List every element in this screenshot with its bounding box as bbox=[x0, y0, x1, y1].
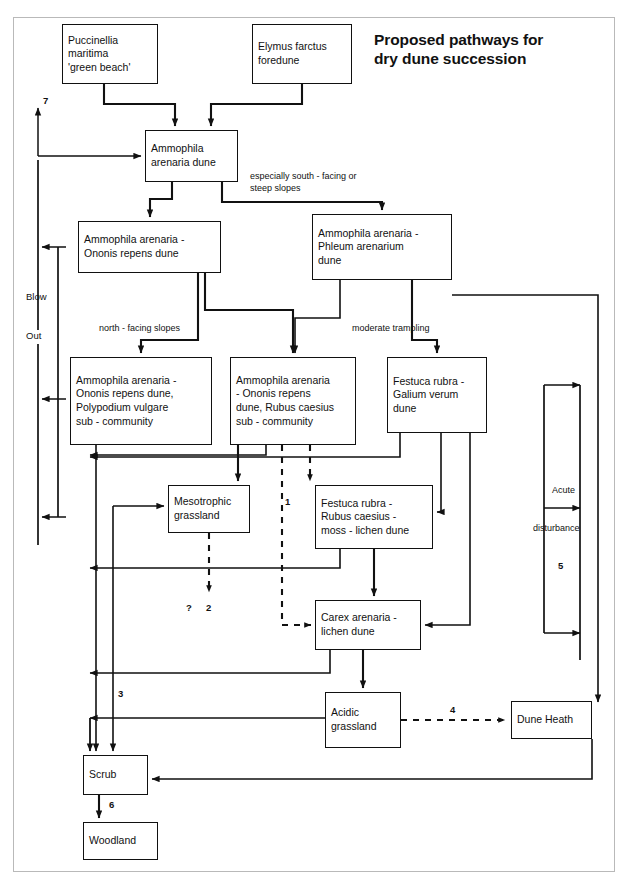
node-label: Puccinellia maritima 'green beach' bbox=[63, 34, 135, 75]
edge-ononis-rubus bbox=[205, 273, 293, 353]
edge-festucarubus-return-left bbox=[90, 549, 340, 568]
node-scrub[interactable]: Scrub bbox=[83, 755, 148, 795]
edge-label-north-facing-slopes: north - facing slopes bbox=[99, 322, 180, 334]
edge-rubus-return-left bbox=[90, 445, 266, 455]
node-label: Festuca rubra - Galium verum dune bbox=[388, 375, 469, 416]
node-label: Dune Heath bbox=[512, 713, 578, 727]
side-label-blow: Blow bbox=[26, 291, 47, 302]
edge-puccinellia-ammophila bbox=[104, 84, 175, 126]
node-woodland[interactable]: Woodland bbox=[83, 822, 158, 860]
edge-phleum-rubus bbox=[295, 280, 340, 353]
pathway-number-6: 6 bbox=[109, 799, 114, 810]
node-label: Ammophila arenaria dune bbox=[146, 142, 221, 169]
pathway-number-1: 1 bbox=[285, 496, 290, 507]
pathway-number-4: 4 bbox=[450, 704, 455, 715]
edge-galium-festuca-rubus bbox=[437, 433, 441, 512]
node-dune-heath[interactable]: Dune Heath bbox=[511, 701, 592, 739]
edge-rubus-carex-dashed bbox=[282, 445, 311, 625]
edge-carex-return-left bbox=[90, 650, 330, 673]
edge-label-moderate-trampling: moderate trampling bbox=[352, 322, 430, 334]
node-label: Ammophila arenaria - Phleum arenarium du… bbox=[313, 227, 423, 268]
node-festuca-galium-dune[interactable]: Festuca rubra - Galium verum dune bbox=[387, 357, 487, 433]
node-label: Festuca rubra - Rubus caesius - moss - l… bbox=[316, 497, 414, 538]
edge-ononis-polypodium bbox=[141, 273, 198, 353]
node-ammophila-rubus-subcommunity[interactable]: Ammophila arenaria - Ononis repens dune,… bbox=[230, 357, 356, 445]
node-ammophila-ononis-dune[interactable]: Ammophila arenaria - Ononis repens dune bbox=[78, 221, 221, 273]
node-label: Ammophila arenaria - Ononis repens dune,… bbox=[231, 374, 339, 428]
node-festuca-rubus-moss-lichen-dune[interactable]: Festuca rubra - Rubus caesius - moss - l… bbox=[315, 485, 433, 549]
node-label: Woodland bbox=[84, 834, 141, 848]
node-ammophila-phleum-dune[interactable]: Ammophila arenaria - Phleum arenarium du… bbox=[312, 214, 452, 280]
node-acidic-grassland[interactable]: Acidic grassland bbox=[325, 692, 401, 748]
node-label: Scrub bbox=[84, 768, 121, 782]
node-mesotrophic-grassland[interactable]: Mesotrophic grassland bbox=[168, 485, 250, 533]
pathway-number-5: 5 bbox=[558, 560, 563, 571]
edge-elymus-ammophila bbox=[211, 84, 302, 126]
diagram-page: Proposed pathways for dry dune successio… bbox=[0, 0, 632, 888]
node-label: Mesotrophic grassland bbox=[169, 495, 236, 522]
edge-label-disturbance: disturbance bbox=[533, 522, 580, 534]
node-ammophila-arenaria-dune[interactable]: Ammophila arenaria dune bbox=[145, 130, 238, 182]
edge-label-especially-south-facing: especially south - facing or steep slope… bbox=[250, 170, 357, 194]
edge-label-acute: Acute bbox=[552, 484, 575, 496]
node-elymus[interactable]: Elymus farctus foredune bbox=[252, 24, 352, 84]
pathway-number-7: 7 bbox=[43, 95, 48, 106]
node-label: Acidic grassland bbox=[326, 706, 382, 733]
page-title: Proposed pathways for dry dune successio… bbox=[374, 30, 604, 68]
pathway-question-mark: ? bbox=[186, 602, 192, 613]
side-label-out: Out bbox=[26, 330, 41, 341]
pathway-number-2: 2 bbox=[206, 602, 211, 613]
node-ammophila-polypodium-subcommunity[interactable]: Ammophila arenaria - Ononis repens dune,… bbox=[70, 357, 212, 445]
node-puccinellia[interactable]: Puccinellia maritima 'green beach' bbox=[62, 24, 158, 84]
node-label: Carex arenaria - lichen dune bbox=[316, 611, 402, 638]
edge-phleum-festuca-galium bbox=[412, 280, 437, 353]
pathway-number-3: 3 bbox=[118, 688, 123, 699]
node-label: Elymus farctus foredune bbox=[253, 40, 332, 67]
node-label: Ammophila arenaria - Ononis repens dune bbox=[79, 233, 189, 260]
edge-ammophila-ononis bbox=[150, 182, 172, 217]
node-label: Ammophila arenaria - Ononis repens dune,… bbox=[71, 374, 181, 428]
node-carex-lichen-dune[interactable]: Carex arenaria - lichen dune bbox=[315, 600, 421, 650]
